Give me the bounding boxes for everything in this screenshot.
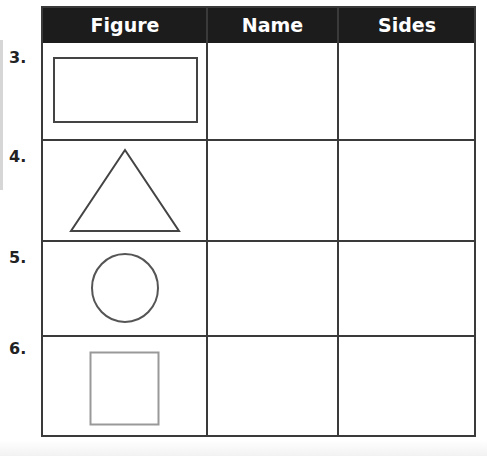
row-number: 4.	[9, 147, 26, 166]
triangle-icon	[69, 148, 181, 234]
sides-cell-5[interactable]	[339, 242, 475, 334]
name-cell-4[interactable]	[208, 141, 336, 239]
sides-cell-4[interactable]	[339, 141, 475, 239]
header-name: Name	[207, 8, 338, 43]
square-icon	[89, 351, 161, 427]
sides-cell-6[interactable]	[339, 337, 475, 435]
name-cell-5[interactable]	[208, 242, 336, 334]
header-sides: Sides	[338, 8, 476, 43]
row-number: 6.	[9, 339, 26, 358]
name-cell-3[interactable]	[208, 44, 336, 138]
sides-cell-3[interactable]	[339, 44, 475, 138]
header-figure: Figure	[43, 8, 207, 43]
rectangle-icon	[53, 57, 199, 125]
name-cell-6[interactable]	[208, 337, 336, 435]
page-bottom-shade	[0, 440, 487, 456]
circle-icon	[90, 252, 160, 324]
row-number: 3.	[9, 48, 26, 67]
shapes-table: Figure Name Sides	[41, 6, 476, 437]
page-edge	[0, 40, 3, 190]
table-header: Figure Name Sides	[43, 8, 474, 43]
row-number: 5.	[9, 248, 26, 267]
